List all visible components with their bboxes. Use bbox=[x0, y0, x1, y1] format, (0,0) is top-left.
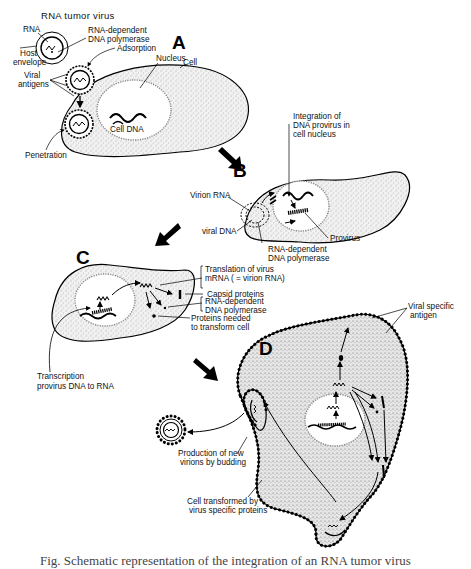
label-adsorption: Adsorption bbox=[117, 44, 156, 54]
label-cell-dna: Cell DNA bbox=[110, 125, 144, 135]
label-penetration: Penetration bbox=[25, 151, 67, 161]
label-provirus: Provirus bbox=[330, 234, 360, 244]
label-host-2: envelope bbox=[13, 58, 46, 68]
label-transcription-1: Transcription bbox=[37, 372, 84, 382]
panel-letter-b: B bbox=[233, 160, 247, 182]
label-budding-2: virions by budding bbox=[180, 458, 246, 468]
figure-caption: Fig. Schematic representation of the int… bbox=[40, 553, 411, 569]
panel-letter-d: D bbox=[259, 338, 273, 360]
virus-title: RNA tumor virus bbox=[41, 11, 115, 21]
panel-letter-a: A bbox=[172, 32, 186, 54]
label-translation-2: mRNA ( = virion RNA) bbox=[205, 274, 285, 284]
label-transform-2: to transform cell bbox=[191, 323, 249, 333]
panel-letter-c: C bbox=[76, 247, 90, 269]
label-integration-3: cell nucleus bbox=[293, 130, 336, 140]
label-cell: Cell bbox=[183, 58, 197, 68]
label-viral-dna: viral DNA bbox=[202, 227, 237, 237]
label-antigens-2: antigens bbox=[18, 80, 49, 90]
virion-adsorbing bbox=[66, 66, 94, 94]
nucleus-b bbox=[273, 181, 329, 231]
virion-budded bbox=[157, 416, 185, 444]
arrow-c-to-d bbox=[193, 358, 218, 381]
label-rna: RNA bbox=[23, 25, 40, 35]
arrow-b-to-c bbox=[155, 223, 181, 246]
label-antigen-2: antigen bbox=[410, 311, 437, 321]
label-transcription-2: provirus DNA to RNA bbox=[37, 382, 114, 392]
panel-b bbox=[228, 124, 409, 243]
label-transformed-2: virus specific proteins bbox=[189, 506, 267, 516]
virion-penetrating bbox=[65, 110, 93, 138]
label-virion-rna: Virion RNA bbox=[190, 191, 230, 201]
panel-c bbox=[49, 264, 203, 372]
label-nucleus: Nucleus bbox=[156, 54, 186, 64]
nucleus-d bbox=[305, 394, 365, 446]
label-b-polymerase-2: DNA polymerase bbox=[268, 254, 329, 264]
